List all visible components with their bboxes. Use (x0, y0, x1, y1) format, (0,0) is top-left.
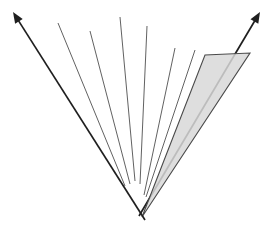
right-arrow-head (251, 12, 261, 24)
fan-line-4 (140, 26, 147, 184)
left-arrow-shaft (18, 20, 145, 220)
fan-line-1 (58, 23, 125, 186)
fan-line-3 (120, 17, 135, 181)
fan-line-2 (90, 31, 130, 184)
left-arrow-head (13, 12, 23, 24)
fan-diagram (0, 0, 270, 229)
diagram-canvas (0, 0, 270, 229)
shaded-wedge (142, 53, 250, 217)
